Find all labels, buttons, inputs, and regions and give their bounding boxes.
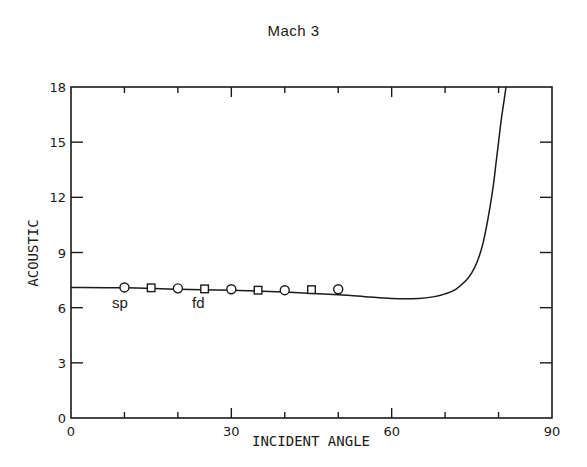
circle-marker <box>334 285 343 294</box>
square-marker <box>147 284 155 292</box>
x-axis-label: INCIDENT ANGLE <box>252 433 370 449</box>
circle-marker <box>227 285 236 294</box>
y-axis-label: ACOUSTIC <box>25 219 41 286</box>
axis-ticks: 03060900369121518 <box>49 80 560 439</box>
y-tick-label: 3 <box>58 356 66 371</box>
y-tick-label: 12 <box>49 190 66 205</box>
circle-marker <box>173 284 182 293</box>
y-tick-label: 0 <box>58 411 66 426</box>
x-tick-label: 30 <box>223 424 240 439</box>
y-tick-label: 15 <box>49 135 66 150</box>
chart-plot: 03060900369121518 sp fd INCIDENT ANGLE A… <box>0 0 587 467</box>
circle-marker <box>280 286 289 295</box>
square-marker <box>308 286 316 294</box>
square-marker <box>254 286 262 294</box>
y-tick-label: 18 <box>49 80 66 95</box>
circle-marker <box>120 283 129 292</box>
theory-curve <box>71 87 506 299</box>
x-tick-label: 90 <box>544 424 561 439</box>
x-tick-label: 60 <box>383 424 400 439</box>
square-marker <box>201 285 209 293</box>
annotation-fd: fd <box>192 294 205 311</box>
y-tick-label: 9 <box>58 246 66 261</box>
y-tick-label: 6 <box>58 301 66 316</box>
x-tick-label: 0 <box>67 424 75 439</box>
annotation-sp: sp <box>112 294 128 311</box>
data-series <box>71 87 506 299</box>
